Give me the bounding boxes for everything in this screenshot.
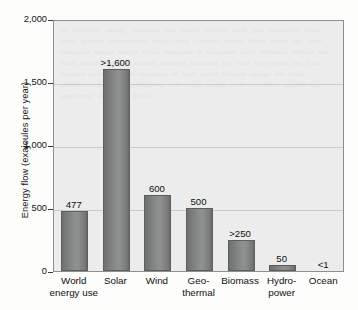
y-axis-tick-label: 1,000 — [24, 140, 47, 150]
x-category-label: Ocean — [290, 275, 356, 287]
bar — [61, 211, 88, 271]
y-axis-tick — [48, 83, 53, 84]
y-axis-tick-label: 2,000 — [24, 14, 47, 24]
bar-value-label: <1 — [293, 259, 353, 270]
y-axis-tick — [48, 20, 53, 21]
bar-value-label: >250 — [210, 228, 270, 239]
bar-value-label: 600 — [127, 183, 187, 194]
y-axis-tick — [48, 146, 53, 147]
bar — [144, 195, 171, 271]
bar-chart-figure: Energy flow (exajoules per year) the ava… — [0, 0, 358, 310]
gridline — [54, 84, 343, 85]
bar-value-label: 500 — [169, 196, 229, 207]
y-axis-tick-label: 1,500 — [24, 77, 47, 87]
y-axis-tick — [48, 272, 53, 273]
bar — [186, 208, 213, 271]
bar-value-label: 477 — [44, 199, 104, 210]
gridline — [54, 147, 343, 148]
bar-value-label: >1,600 — [85, 57, 145, 68]
bar — [269, 265, 296, 271]
bar — [228, 240, 255, 272]
bar — [103, 69, 130, 271]
